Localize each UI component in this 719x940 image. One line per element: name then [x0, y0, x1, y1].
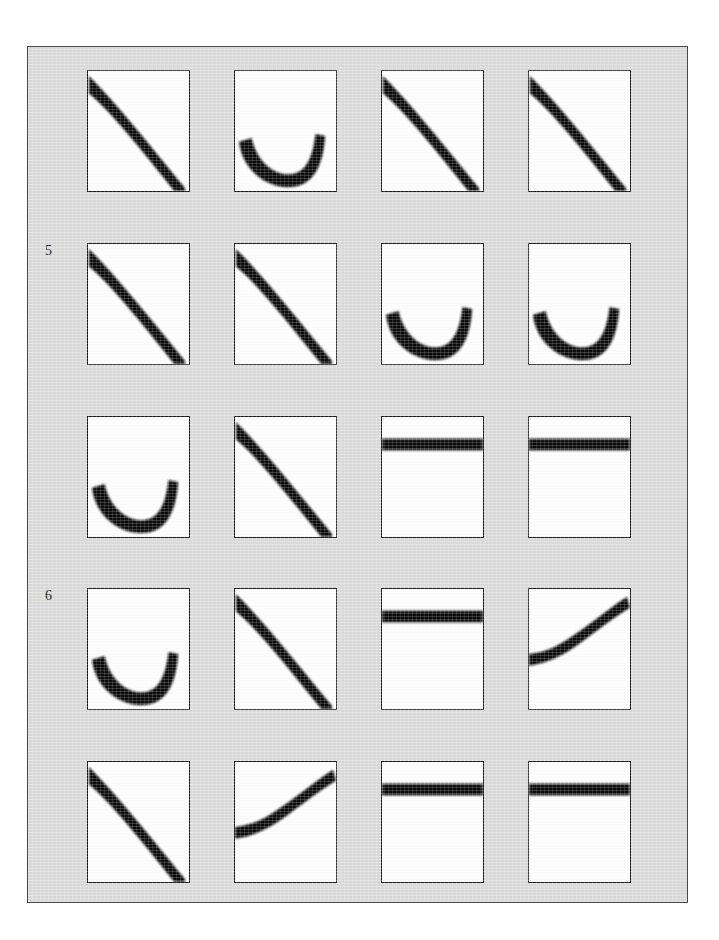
- curve-decreasing-convex-curve-icon: [88, 762, 189, 882]
- curve-decreasing-convex-curve-icon: [88, 71, 189, 191]
- curve-rising-s-curve-icon: [529, 589, 630, 709]
- curve-panel-r4-c4: [528, 588, 631, 710]
- curve-u-shaped-curve-icon: [235, 71, 336, 191]
- curve-panel-r5-c4: [528, 761, 631, 883]
- curve-panel-r4-c3: [381, 588, 484, 710]
- curve-panel-r1-c1: [87, 70, 190, 192]
- curve-panel-r5-c3: [381, 761, 484, 883]
- curve-panel-r1-c3: [381, 70, 484, 192]
- curve-decreasing-convex-curve-icon: [529, 71, 630, 191]
- curve-u-shaped-curve-icon: [88, 417, 189, 537]
- curve-rising-s-curve-icon: [235, 762, 336, 882]
- curve-panel-r3-c3: [381, 416, 484, 538]
- curve-decreasing-convex-curve-icon: [235, 244, 336, 364]
- curve-decreasing-convex-curve-icon: [235, 589, 336, 709]
- curve-panel-r4-c2: [234, 588, 337, 710]
- curve-horizontal-bar-icon: [529, 417, 630, 537]
- curve-panel-r5-c2: [234, 761, 337, 883]
- curve-horizontal-bar-icon: [529, 762, 630, 882]
- curve-panel-r2-c1: [87, 243, 190, 365]
- curve-panel-r2-c4: [528, 243, 631, 365]
- curve-panel-r2-c3: [381, 243, 484, 365]
- curve-decreasing-convex-curve-icon: [382, 71, 483, 191]
- row-label-5: 5: [45, 244, 52, 258]
- curve-horizontal-bar-icon: [382, 417, 483, 537]
- curve-panel-r5-c1: [87, 761, 190, 883]
- curve-decreasing-convex-curve-icon: [88, 244, 189, 364]
- curve-panel-r1-c2: [234, 70, 337, 192]
- curve-panel-r4-c1: [87, 588, 190, 710]
- curve-u-shaped-curve-icon: [88, 589, 189, 709]
- curve-panel-r2-c2: [234, 243, 337, 365]
- curve-panel-r3-c1: [87, 416, 190, 538]
- figure-plate: 56: [27, 46, 688, 903]
- curve-u-shaped-curve-icon: [529, 244, 630, 364]
- curve-panel-r1-c4: [528, 70, 631, 192]
- curve-horizontal-bar-icon: [382, 589, 483, 709]
- curve-u-shaped-curve-icon: [382, 244, 483, 364]
- curve-horizontal-bar-icon: [382, 762, 483, 882]
- curve-decreasing-convex-curve-icon: [235, 417, 336, 537]
- curve-panel-r3-c4: [528, 416, 631, 538]
- curve-panel-r3-c2: [234, 416, 337, 538]
- row-label-6: 6: [45, 589, 52, 603]
